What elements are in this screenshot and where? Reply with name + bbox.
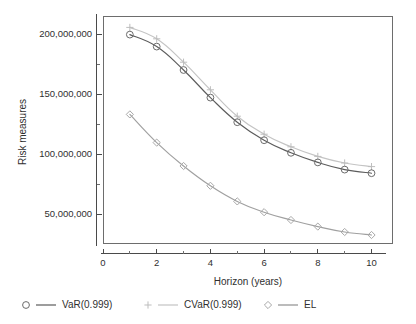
- legend-marker-plus: [144, 301, 151, 308]
- risk-measures-line-chart: 50,000,000100,000,000150,000,000200,000,…: [0, 0, 416, 324]
- legend-item-cvar-0-999[interactable]: CVaR(0.999): [144, 299, 241, 310]
- y-tick-label: 100,000,000: [39, 148, 92, 159]
- legend-label: CVaR(0.999): [184, 299, 242, 310]
- data-point-marker: [126, 24, 133, 31]
- x-tick-label: 2: [154, 257, 159, 268]
- series-cvar-0-999: [126, 24, 375, 170]
- x-axis: 0246810: [100, 249, 385, 269]
- data-point-marker: [153, 35, 160, 42]
- x-tick-label: 10: [366, 257, 377, 268]
- y-axis: 50,000,000100,000,000150,000,000200,000,…: [39, 14, 101, 246]
- legend-item-var-0-999[interactable]: VaR(0.999): [23, 299, 113, 310]
- legend-label: EL: [304, 299, 317, 310]
- y-tick-label: 50,000,000: [44, 208, 92, 219]
- y-axis-title: Risk measures: [17, 99, 28, 165]
- chart-legend: VaR(0.999)CVaR(0.999)EL: [23, 299, 317, 310]
- x-tick-label: 6: [261, 257, 266, 268]
- legend-marker-circle: [23, 302, 30, 309]
- legend-item-el[interactable]: EL: [264, 299, 316, 310]
- data-series-group: [126, 24, 375, 239]
- data-point-marker: [368, 163, 375, 170]
- x-tick-label: 4: [208, 257, 213, 268]
- series-path: [130, 35, 372, 174]
- x-tick-label: 0: [100, 257, 105, 268]
- series-var-0-999: [126, 31, 374, 176]
- chart-figure: 50,000,000100,000,000150,000,000200,000,…: [0, 0, 416, 324]
- series-el: [126, 111, 375, 239]
- x-axis-title: Horizon (years): [214, 276, 282, 287]
- y-tick-label: 200,000,000: [39, 28, 92, 39]
- series-path: [130, 27, 372, 166]
- x-tick-label: 8: [315, 257, 320, 268]
- y-tick-label: 150,000,000: [39, 88, 92, 99]
- legend-marker-diamond: [264, 301, 271, 308]
- legend-label: VaR(0.999): [62, 299, 112, 310]
- data-point-marker: [341, 159, 348, 166]
